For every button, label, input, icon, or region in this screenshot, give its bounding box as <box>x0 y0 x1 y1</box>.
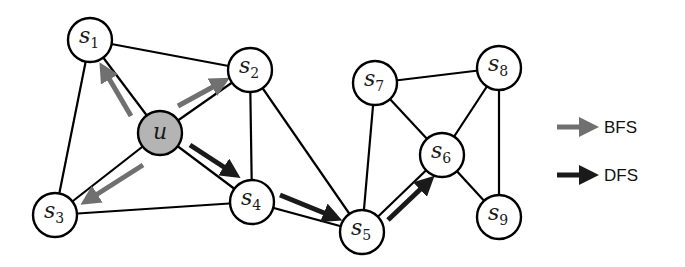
node-label: u <box>153 119 167 144</box>
legend-item-bfs: BFS <box>557 118 637 137</box>
node-s4: s4 <box>230 180 274 224</box>
graph-traversal-diagram: us1s2s3s4s5s6s7s8s9 BFS DFS <box>0 0 685 267</box>
edge-s1-s3 <box>55 40 90 215</box>
legend-item-dfs: DFS <box>557 166 638 185</box>
edge-s3-s4 <box>55 202 252 215</box>
node-s3: s3 <box>33 193 77 237</box>
edge-s1-s2 <box>90 40 250 70</box>
legend-label-dfs: DFS <box>604 166 638 185</box>
dfs-arrow-s4-s5 <box>280 195 334 217</box>
node-s2: s2 <box>228 48 272 92</box>
node-s8: s8 <box>477 46 521 90</box>
node-s9: s9 <box>477 195 521 239</box>
legend-label-bfs: BFS <box>604 118 637 137</box>
node-s5: s5 <box>340 210 384 254</box>
node-s1: s1 <box>68 18 112 62</box>
node-s6: s6 <box>420 133 464 177</box>
legend: BFS DFS <box>557 118 638 185</box>
node-u: u <box>138 111 182 155</box>
node-s7: s7 <box>353 61 397 105</box>
nodes-layer: us1s2s3s4s5s6s7s8s9 <box>33 18 521 254</box>
